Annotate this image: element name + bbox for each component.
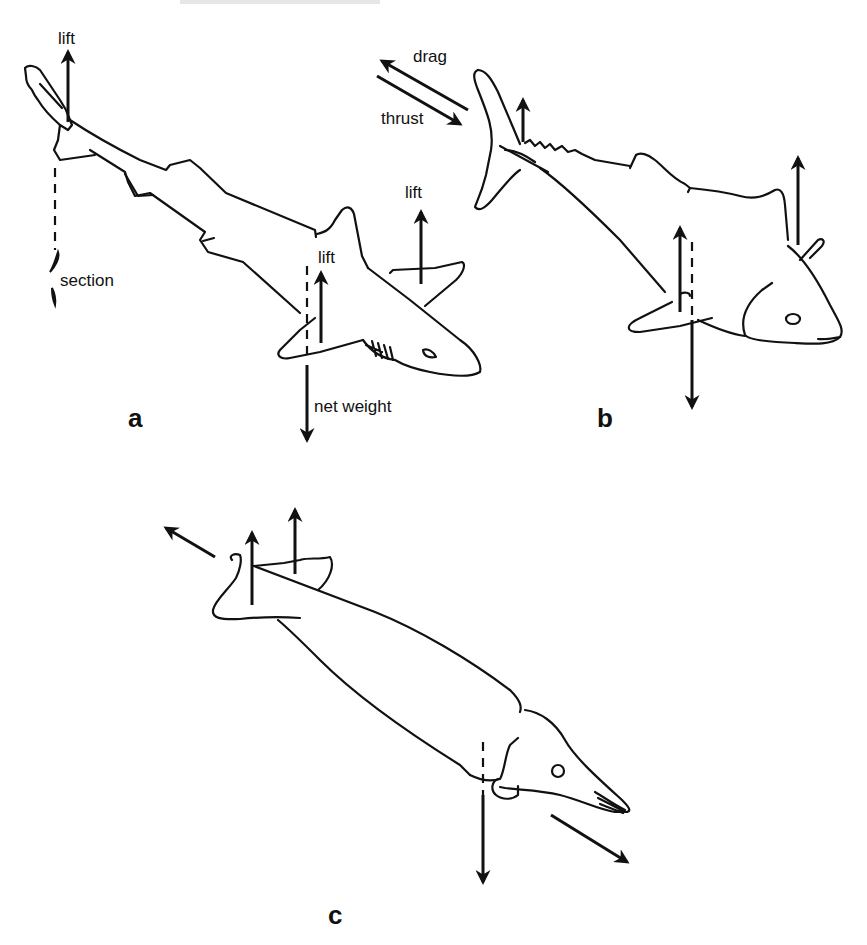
section-label: section	[60, 272, 114, 289]
drag-label: drag	[413, 48, 447, 65]
whale-drawing	[213, 554, 629, 813]
section-lower-glyph	[52, 288, 55, 305]
tail-lift-label: lift	[58, 30, 75, 47]
pectoral-lift-label: lift	[318, 249, 335, 266]
thrust-label: thrust	[381, 110, 424, 127]
thrust-arrow-c	[551, 815, 627, 862]
panel-label-c: c	[328, 902, 342, 928]
figure-drawing	[0, 0, 867, 945]
force-diagram-figure: lift section lift lift net weight drag t…	[0, 0, 867, 945]
panel-label-a: a	[128, 405, 142, 431]
section-upper-glyph	[50, 252, 59, 272]
drag-arrow-c	[166, 528, 215, 557]
panel-label-b: b	[597, 405, 613, 431]
head-lift-label: lift	[405, 184, 422, 201]
tuna-drawing	[474, 70, 841, 344]
net-weight-label: net weight	[314, 398, 392, 415]
